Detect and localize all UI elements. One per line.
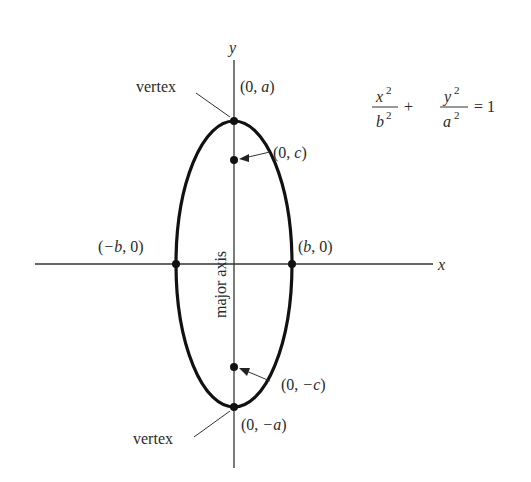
top-vertex-label: (0, a) — [240, 78, 275, 96]
right-covertex-label: (b, 0) — [298, 238, 333, 256]
eq-term1-num-exp: 2 — [386, 84, 392, 96]
eq-equals-one: = 1 — [474, 98, 495, 115]
eq-plus: + — [404, 98, 413, 115]
eq-term2-den: a — [443, 113, 451, 130]
eq-term1-den-exp: 2 — [386, 109, 392, 121]
focus-top-arrowhead — [239, 154, 249, 162]
focus-bottom-arrowhead — [239, 368, 250, 376]
top-vertex-point — [230, 117, 238, 125]
eq-term1-num: x — [375, 88, 383, 105]
eq-term2-den-exp: 2 — [454, 109, 460, 121]
ellipse-diagram: y x vertex vertex (0, a) (0, c) (−b, 0) … — [0, 0, 531, 482]
eq-term1-den: b — [376, 113, 384, 130]
bottom-vertex-label: (0, −a) — [241, 416, 286, 434]
focus-bottom-label: (0, −c) — [281, 376, 326, 394]
vertex-bottom-leader — [194, 411, 230, 437]
y-axis-label: y — [227, 39, 237, 57]
ellipse-equation: x 2 b 2 + y 2 a 2 = 1 — [372, 84, 495, 130]
major-axis-label: major axis — [212, 251, 230, 318]
vertex-bottom-label: vertex — [133, 430, 173, 447]
left-covertex-point — [172, 260, 180, 268]
right-covertex-point — [288, 260, 296, 268]
focus-top-label: (0, c) — [273, 144, 307, 162]
vertex-top-label: vertex — [136, 78, 176, 95]
bottom-vertex-point — [230, 403, 238, 411]
eq-term2-num: y — [442, 88, 452, 106]
vertex-top-leader — [196, 93, 230, 117]
eq-term2-num-exp: 2 — [454, 84, 460, 96]
focus-top-point — [230, 156, 238, 164]
focus-bottom-point — [230, 363, 238, 371]
left-covertex-label: (−b, 0) — [98, 238, 143, 256]
x-axis-label: x — [437, 256, 445, 273]
